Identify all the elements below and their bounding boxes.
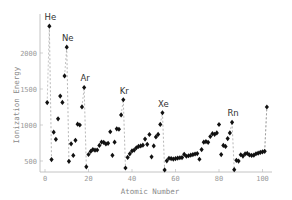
data-point: [119, 112, 123, 117]
data-point: [143, 137, 147, 142]
peak-label-ne: Ne: [62, 33, 74, 43]
data-point: [160, 110, 164, 115]
data-point: [149, 154, 153, 159]
data-point: [60, 100, 64, 105]
x-axis-label: Atomic Number: [121, 187, 180, 196]
x-tick-label: 100: [256, 175, 269, 183]
data-point: [200, 147, 204, 152]
drop-lines: [47, 26, 267, 170]
data-point: [126, 155, 130, 160]
peak-label-ar: Ar: [80, 73, 90, 83]
x-tick-label: 0: [43, 175, 47, 183]
y-tick-label: 2000: [20, 50, 37, 58]
x-tick-label: 20: [84, 175, 92, 183]
data-point: [54, 137, 58, 142]
data-points: [45, 24, 269, 173]
x-tick-label: 40: [128, 175, 136, 183]
data-point: [65, 45, 69, 50]
x-tick-label: 60: [171, 175, 179, 183]
peak-label-kr: Kr: [120, 86, 130, 96]
data-point: [113, 140, 117, 145]
data-point: [230, 120, 234, 125]
peak-label-he: He: [45, 12, 57, 22]
data-point: [58, 93, 62, 98]
data-point: [265, 104, 269, 109]
y-tick-label: 1000: [20, 122, 37, 130]
data-point: [73, 138, 77, 143]
data-point: [110, 153, 114, 158]
data-point: [49, 157, 53, 162]
data-point: [52, 130, 56, 135]
data-point: [152, 143, 156, 148]
data-point: [69, 141, 73, 146]
ionization-energy-chart: 020406080100500100015002000 HeNeArKrXeRn…: [0, 0, 292, 200]
data-point: [219, 152, 223, 157]
data-point: [47, 24, 51, 29]
peak-label-xe: Xe: [158, 99, 169, 109]
data-point: [62, 73, 66, 78]
data-point: [108, 129, 112, 134]
data-point: [123, 165, 127, 170]
data-point: [121, 97, 125, 102]
y-axis-label: Ionization Energy: [12, 66, 21, 143]
data-point: [147, 132, 151, 137]
axes: 020406080100500100015002000: [20, 14, 272, 183]
peak-label-rn: Rn: [227, 108, 238, 118]
data-point: [145, 142, 149, 147]
y-tick-label: 500: [24, 158, 37, 166]
data-point: [71, 153, 75, 158]
data-point: [232, 167, 236, 172]
data-point: [67, 159, 71, 164]
data-point: [197, 157, 201, 162]
data-point: [45, 100, 49, 105]
data-point: [228, 130, 232, 135]
data-point: [84, 164, 88, 169]
data-point: [80, 104, 84, 109]
data-point: [217, 122, 221, 127]
data-point: [226, 136, 230, 141]
x-tick-label: 80: [215, 175, 223, 183]
data-point: [158, 122, 162, 127]
data-point: [82, 85, 86, 90]
peak-labels: HeNeArKrXeRn: [45, 12, 239, 118]
y-tick-label: 1500: [20, 86, 37, 94]
data-point: [56, 116, 60, 121]
